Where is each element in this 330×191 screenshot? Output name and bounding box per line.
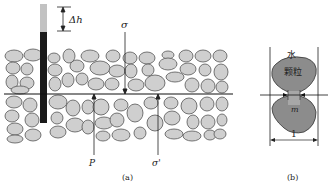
- delta-h-label: Δh: [68, 14, 83, 25]
- figure-a-caption: (a): [122, 173, 133, 182]
- contact-area-label: m: [291, 105, 299, 114]
- water-label: 水: [287, 49, 296, 60]
- piezometer-tube-water: [40, 4, 47, 32]
- effective-stress-label: σ': [152, 158, 161, 168]
- pore-pressure-label: P: [88, 158, 96, 168]
- soil-grains: [5, 49, 228, 143]
- particle-label: 颗粒: [284, 66, 302, 77]
- soil-stress-diagram: Δh σ P σ' (a) 水 颗粒 m 1 (b): [0, 0, 330, 191]
- unit-width-label: 1: [291, 129, 297, 139]
- sigma-label: σ: [121, 19, 129, 30]
- figure-b-caption: (b): [287, 173, 298, 182]
- piezometer-tube: [40, 32, 47, 123]
